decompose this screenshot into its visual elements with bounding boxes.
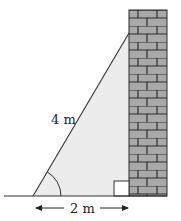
ladder-wall-diagram: 4 m 2 m <box>0 0 181 221</box>
right-angle-marker <box>114 181 129 196</box>
base-label: 2 m <box>70 201 95 216</box>
brick-wall <box>129 10 167 196</box>
hypotenuse-label: 4 m <box>51 112 76 127</box>
